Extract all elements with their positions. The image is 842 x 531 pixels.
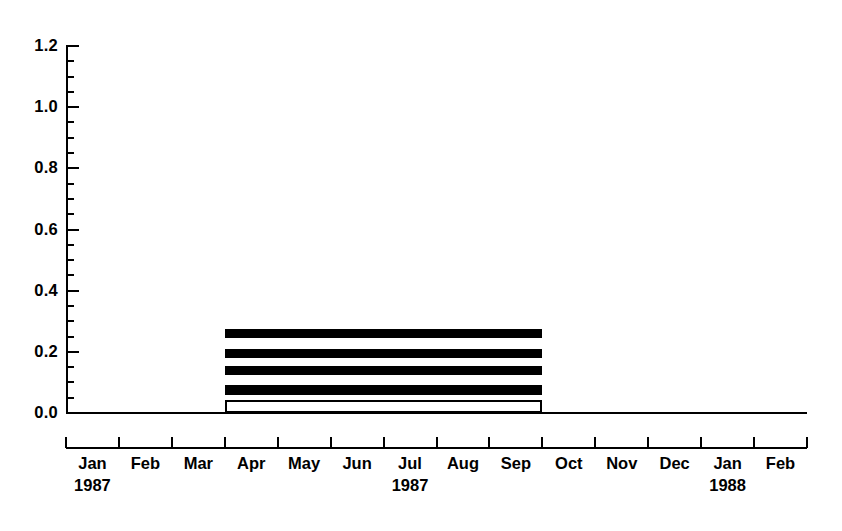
x-axis-tick: [118, 437, 120, 448]
y-axis-tick-label: 0.8: [2, 159, 58, 176]
x-axis-tick: [700, 437, 702, 448]
x-axis-tick: [171, 437, 173, 448]
x-axis-month-label: Jul: [380, 455, 440, 472]
y-axis-minor-tick: [66, 91, 74, 93]
y-axis-minor-tick: [66, 366, 74, 368]
x-axis-month-label: Feb: [751, 455, 811, 472]
y-axis-minor-tick: [66, 121, 74, 123]
x-axis-tick: [488, 437, 490, 448]
y-axis-minor-tick: [66, 336, 74, 338]
y-axis-minor-tick: [66, 198, 74, 200]
x-axis-tick: [647, 437, 649, 448]
y-axis-tick-label: 0.6: [2, 221, 58, 238]
plot-area: 0.00.20.40.60.81.01.2 JanFebMarAprMayJun…: [0, 0, 842, 531]
y-axis-minor-tick: [66, 60, 74, 62]
x-axis-year-label: 1987: [375, 477, 445, 494]
y-axis-major-tick: [66, 45, 79, 47]
x-axis-tick: [753, 437, 755, 448]
chart-bar: [225, 385, 543, 394]
x-axis-year-label: 1988: [693, 477, 763, 494]
chart-bar: [225, 366, 543, 375]
x-axis-month-label: Mar: [168, 455, 228, 472]
y-axis-minor-tick: [66, 274, 74, 276]
y-axis-minor-tick: [66, 305, 74, 307]
x-axis-month-label: May: [274, 455, 334, 472]
chart-page: 0.00.20.40.60.81.01.2 JanFebMarAprMayJun…: [0, 0, 842, 531]
x-axis-month-label: Aug: [433, 455, 493, 472]
y-axis-major-tick: [66, 167, 79, 169]
chart-bar: [225, 349, 543, 358]
y-axis-minor-tick: [66, 320, 74, 322]
x-axis-tick: [383, 437, 385, 448]
x-axis-month-label: Dec: [645, 455, 705, 472]
y-axis-tick-label: 0.0: [2, 404, 58, 421]
x-axis-tick: [594, 437, 596, 448]
x-axis-end-cap: [806, 437, 808, 448]
x-axis-tick: [330, 437, 332, 448]
x-axis-month-label: Nov: [592, 455, 652, 472]
y-axis-tick-label: 1.0: [2, 98, 58, 115]
y-axis-minor-tick: [66, 259, 74, 261]
y-axis-minor-tick: [66, 381, 74, 383]
x-axis-month-label: Feb: [115, 455, 175, 472]
y-axis-minor-tick: [66, 137, 74, 139]
y-axis-major-tick: [66, 290, 79, 292]
x-axis-tick: [224, 437, 226, 448]
x-axis-tick: [436, 437, 438, 448]
x-axis-month-label: Jan: [698, 455, 758, 472]
y-axis-minor-tick: [66, 213, 74, 215]
chart-bar: [225, 329, 543, 338]
y-axis-minor-tick: [66, 152, 74, 154]
x-axis-month-label: Apr: [221, 455, 281, 472]
x-axis-tick: [541, 437, 543, 448]
y-axis-minor-tick: [66, 183, 74, 185]
x-axis-month-label: Jun: [327, 455, 387, 472]
x-axis-month-label: Jan: [62, 455, 122, 472]
x-axis-end-cap: [65, 437, 67, 448]
x-axis-tick: [277, 437, 279, 448]
y-axis-minor-tick: [66, 76, 74, 78]
x-axis-month-label: Sep: [486, 455, 546, 472]
chart-bar: [225, 400, 543, 413]
x-axis-year-label: 1987: [57, 477, 127, 494]
y-axis-minor-tick: [66, 244, 74, 246]
y-axis-tick-label: 0.2: [2, 343, 58, 360]
y-axis-major-tick: [66, 106, 79, 108]
y-axis-major-tick: [66, 229, 79, 231]
x-axis-month-label: Oct: [539, 455, 599, 472]
y-axis-major-tick: [66, 351, 79, 353]
y-axis-minor-tick: [66, 397, 74, 399]
y-axis-tick-label: 1.2: [2, 37, 58, 54]
y-axis-tick-label: 0.4: [2, 282, 58, 299]
